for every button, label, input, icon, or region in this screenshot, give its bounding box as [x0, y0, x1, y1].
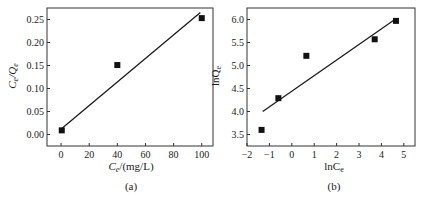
x-tick-label: −1 — [264, 149, 275, 160]
x-axis-title-a: Ce/(mg/L) — [108, 160, 153, 174]
panel-label-b: (b) — [328, 180, 341, 193]
data-point-marker — [275, 95, 281, 101]
x-tick-label: 2 — [334, 149, 339, 160]
x-tick-label: 100 — [194, 149, 209, 160]
x-tick-label: 4 — [379, 149, 384, 160]
x-tick-label: −2 — [242, 149, 253, 160]
y-tick-label: 6.0 — [232, 14, 245, 25]
chart-panel-a: 0.000.050.100.150.200.25 020406080100 Ce… — [6, 8, 213, 193]
x-tick-label: 20 — [84, 149, 94, 160]
y-tick-label: 3.5 — [232, 129, 245, 140]
data-point-marker — [114, 62, 120, 68]
x-tick-label: 1 — [312, 149, 317, 160]
data-point-marker — [259, 127, 265, 133]
x-tick-label: 60 — [140, 149, 150, 160]
y-tick-label: 0.15 — [27, 60, 45, 71]
regression-line — [62, 13, 201, 129]
x-tick-label: 5 — [401, 149, 406, 160]
y-tick-label: 0.05 — [27, 106, 45, 117]
y-tick-label: 0.25 — [27, 14, 45, 25]
chart-panel-b: 3.54.04.55.05.56.0 −2−1012345 lnQe lnCe … — [209, 8, 415, 193]
y-tick-label: 5.0 — [232, 60, 245, 71]
figure: 0.000.050.100.150.200.25 020406080100 Ce… — [0, 0, 423, 198]
y-axis-title-b: lnQe — [209, 66, 223, 87]
y-tick-label: 5.5 — [232, 37, 245, 48]
y-tick-label: 0.00 — [27, 129, 45, 140]
fit-line-b — [263, 20, 395, 112]
y-tick-label: 4.5 — [232, 83, 245, 94]
x-tick-label: 80 — [169, 149, 179, 160]
x-axis-title-b: lnCe — [324, 160, 344, 174]
data-points-b — [259, 18, 399, 133]
y-tick-label: 4.0 — [232, 106, 245, 117]
data-points-a — [59, 15, 205, 133]
x-tick-label: 3 — [357, 149, 362, 160]
data-point-marker — [199, 15, 205, 21]
fit-line-a — [62, 13, 201, 129]
panel-label-a: (a) — [125, 180, 138, 193]
x-tick-label: 0 — [59, 149, 64, 160]
data-point-marker — [372, 36, 378, 42]
plot-frame-a — [47, 8, 213, 146]
x-tick-label: 0 — [289, 149, 294, 160]
y-tick-label: 0.20 — [27, 37, 45, 48]
y-tick-label: 0.10 — [27, 83, 45, 94]
data-point-marker — [59, 127, 65, 133]
y-axis-a: 0.000.050.100.150.200.25 — [27, 14, 51, 140]
data-point-marker — [393, 18, 399, 24]
x-tick-label: 40 — [112, 149, 122, 160]
data-point-marker — [303, 53, 309, 59]
regression-line — [263, 20, 395, 112]
y-axis-title-a: Ce/Qe — [6, 63, 20, 89]
plot-frame-b — [247, 8, 415, 146]
